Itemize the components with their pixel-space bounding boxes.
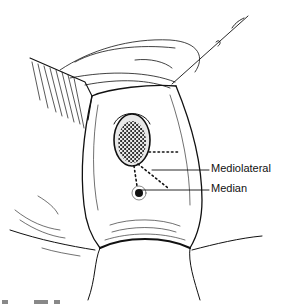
vaginal-orifice [114,114,150,167]
label-median: Median [211,182,247,194]
median-incision-line [134,166,137,186]
left-flap [30,58,92,128]
caption-fragment [2,300,60,304]
mediolateral-incision-line [138,164,168,188]
lower-outline [10,230,262,300]
label-mediolateral: Mediolateral [211,162,271,174]
anus [132,186,146,200]
figure-canvas: Mediolateral Median [0,0,285,304]
needle-thread [172,16,248,84]
side-hatching [15,196,80,256]
perineum-illustration [0,0,285,304]
